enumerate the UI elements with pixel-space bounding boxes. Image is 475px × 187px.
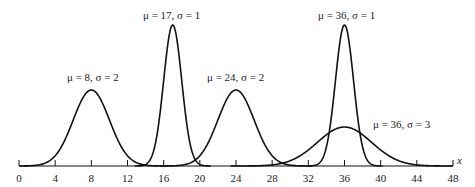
label-mu24-sigma2: μ = 24, σ = 2	[207, 71, 264, 83]
label-mu36-sigma3: μ = 36, σ = 3	[373, 118, 431, 130]
x-tick-label: 8	[89, 172, 95, 184]
x-tick-label: 40	[375, 172, 387, 184]
x-tick-label: 32	[303, 172, 314, 184]
curve-2	[135, 25, 211, 166]
x-tick-label: 36	[339, 172, 351, 184]
x-tick-label: 24	[231, 172, 243, 184]
x-tick-label: 44	[411, 172, 423, 184]
x-tick-label: 4	[52, 172, 58, 184]
x-axis-ticks: 04812162024283236404448	[16, 160, 459, 184]
x-tick-label: 48	[448, 172, 460, 184]
curve-4	[307, 25, 383, 166]
label-mu36-sigma1: μ = 36, σ = 1	[318, 9, 375, 21]
normal-curves-chart: 04812162024283236404448 x μ = 8, σ = 2 μ…	[0, 0, 475, 187]
curves	[19, 25, 453, 166]
x-axis-label: x	[456, 154, 462, 166]
curve-5	[231, 127, 453, 166]
curve-1	[19, 90, 167, 166]
x-tick-label: 16	[158, 172, 170, 184]
x-tick-label: 28	[267, 172, 279, 184]
label-mu17-sigma1: μ = 17, σ = 1	[143, 9, 200, 21]
curve-3	[160, 90, 312, 166]
x-tick-label: 0	[16, 172, 22, 184]
label-mu8-sigma2: μ = 8, σ = 2	[67, 71, 119, 83]
x-tick-label: 20	[194, 172, 206, 184]
x-tick-label: 12	[122, 172, 133, 184]
